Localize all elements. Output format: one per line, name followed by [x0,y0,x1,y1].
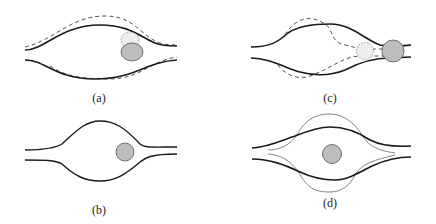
lower-wall [25,60,177,79]
figure-canvas: (a) (c) (b) (d) [0,0,436,224]
panel-d: (d) [252,114,411,210]
panel-label-a: (a) [92,91,105,105]
particle [323,145,342,164]
panel-a: (a) [25,16,177,105]
previous-particle-dotted [357,43,374,60]
particle [116,143,134,161]
particle [382,40,404,62]
panel-label-c: (c) [323,91,336,105]
panel-label-d: (d) [323,196,337,210]
upper-wall [25,121,177,150]
panel-label-b: (b) [92,203,106,217]
panel-c: (c) [251,19,411,105]
lower-wall [25,154,177,181]
panel-b: (b) [25,121,177,217]
particle [121,43,143,61]
